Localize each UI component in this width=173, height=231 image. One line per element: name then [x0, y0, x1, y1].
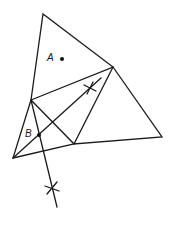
- point-a-label: A: [46, 52, 54, 63]
- right-triangle: [74, 67, 162, 144]
- point-b-dot: [37, 133, 41, 137]
- geometry-diagram: A B: [0, 0, 173, 231]
- point-a-dot: [60, 57, 64, 61]
- point-b-label: B: [25, 128, 32, 139]
- upper-triangle: [31, 14, 113, 100]
